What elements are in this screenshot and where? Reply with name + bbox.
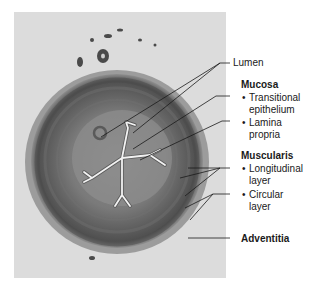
ureter-micrograph: [0, 0, 317, 291]
label-longitudinal-layer-2: layer: [249, 175, 271, 187]
label-adventitia: Adventitia: [241, 233, 289, 245]
label-lamina-propria-1: Lamina: [249, 117, 282, 129]
label-longitudinal-layer-1: Longitudinal: [249, 163, 303, 175]
label-lumen: Lumen: [233, 57, 264, 69]
label-transitional-epithelium-1: Transitional: [249, 92, 300, 104]
label-mucosa: Mucosa: [241, 79, 278, 91]
label-muscularis: Muscularis: [241, 150, 293, 162]
label-lamina-propria-2: propria: [249, 129, 280, 141]
label-circular-layer-2: layer: [249, 201, 271, 213]
label-transitional-epithelium-2: epithelium: [249, 104, 295, 116]
label-circular-layer-1: Circular: [249, 189, 283, 201]
